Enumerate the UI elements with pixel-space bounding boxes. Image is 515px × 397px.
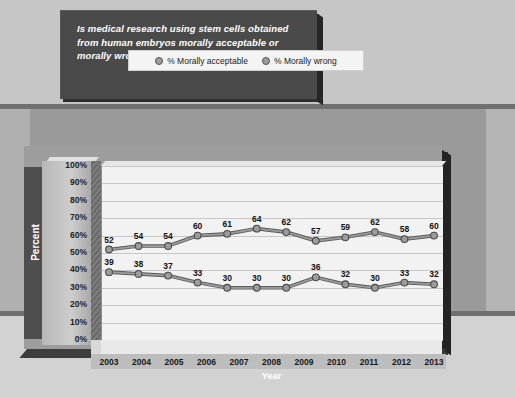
background-divider-top [0, 104, 515, 109]
y-axis-title: Percent [30, 168, 41, 318]
data-point-label: 36 [311, 262, 320, 272]
x-axis-tick-label: 2013 [425, 357, 444, 367]
legend-label-morally-wrong: % Morally wrong [274, 56, 337, 66]
data-point-label: 54 [134, 231, 143, 241]
data-point-label: 32 [429, 269, 438, 279]
data-point-label: 37 [163, 261, 172, 271]
y-axis-tick-label: 100% [65, 161, 87, 170]
y-axis-tick-label: 70% [70, 213, 87, 222]
data-point-marker[interactable] [283, 284, 290, 291]
data-point-label: 62 [370, 217, 379, 227]
data-point-label: 30 [252, 273, 261, 283]
x-axis-tick-label: 2010 [327, 357, 346, 367]
x-axis-tick-label: 2005 [165, 357, 184, 367]
data-point-marker[interactable] [312, 274, 319, 281]
data-point-label: 38 [134, 259, 143, 269]
data-point-marker[interactable] [224, 284, 231, 291]
y-axis-title-slab: Percent [24, 167, 42, 339]
data-point-label: 30 [282, 273, 291, 283]
data-point-marker[interactable] [312, 237, 319, 244]
x-axis-tick-label: 2006 [197, 357, 216, 367]
x-axis-tick-label: 2009 [295, 357, 314, 367]
data-point-marker[interactable] [283, 229, 290, 236]
data-point-marker[interactable] [224, 230, 231, 237]
data-point-label: 61 [222, 219, 231, 229]
data-point-label: 64 [252, 214, 261, 224]
data-point-label: 30 [370, 273, 379, 283]
chart-panel-side-face [442, 150, 451, 355]
data-point-marker[interactable] [401, 236, 408, 243]
data-point-marker[interactable] [135, 270, 142, 277]
data-point-marker[interactable] [253, 284, 260, 291]
y-axis-tick-label: 80% [70, 196, 87, 205]
data-point-label: 62 [282, 217, 291, 227]
data-point-marker[interactable] [431, 232, 438, 239]
data-point-label: 54 [163, 231, 172, 241]
data-point-marker[interactable] [106, 246, 113, 253]
chart-screenshot: Is medical research using stem cells obt… [0, 0, 515, 397]
data-point-marker[interactable] [135, 243, 142, 250]
y-axis-tick-label: 0% [75, 335, 87, 344]
background-right-column [486, 104, 515, 316]
y-axis-tick-label: 20% [70, 300, 87, 309]
data-point-marker[interactable] [165, 272, 172, 279]
legend-label-morally-acceptable: % Morally acceptable [167, 56, 248, 66]
chart-legend: % Morally acceptable % Morally wrong [128, 50, 364, 71]
data-point-marker[interactable] [342, 281, 349, 288]
data-point-label: 52 [104, 235, 113, 245]
y-axis-tick-label: 50% [70, 248, 87, 257]
plot-left-wall [91, 161, 101, 345]
data-point-label: 33 [400, 268, 409, 278]
data-point-label: 30 [222, 273, 231, 283]
data-point-label: 32 [341, 269, 350, 279]
y-axis-tick-label: 90% [70, 178, 87, 187]
data-point-label: 57 [311, 226, 320, 236]
plot-floor [101, 340, 442, 354]
y-axis-tick-label: 60% [70, 231, 87, 240]
data-point-marker[interactable] [194, 232, 201, 239]
data-point-label: 60 [429, 221, 438, 231]
data-point-label: 58 [400, 224, 409, 234]
data-point-marker[interactable] [372, 229, 379, 236]
data-point-label: 33 [193, 268, 202, 278]
series-line [109, 272, 434, 288]
legend-item-morally-acceptable[interactable]: % Morally acceptable [155, 56, 248, 66]
x-axis: 2003200420052006200720082009201020112012… [91, 354, 446, 369]
series-lines [101, 166, 442, 340]
data-point-marker[interactable] [342, 234, 349, 241]
data-point-marker[interactable] [431, 281, 438, 288]
x-axis-title: Year [101, 370, 442, 381]
y-axis-tick-label: 40% [70, 265, 87, 274]
y-axis-tick-label: 30% [70, 283, 87, 292]
data-point-marker[interactable] [194, 279, 201, 286]
data-point-label: 60 [193, 221, 202, 231]
data-point-label: 39 [104, 257, 113, 267]
x-axis-tick-label: 2004 [132, 357, 151, 367]
data-point-marker[interactable] [401, 279, 408, 286]
x-axis-tick-label: 2007 [230, 357, 249, 367]
x-axis-tick-label: 2012 [392, 357, 411, 367]
x-axis-tick-label: 2003 [100, 357, 119, 367]
y-axis-tick-label: 10% [70, 318, 87, 327]
data-point-marker[interactable] [165, 243, 172, 250]
data-point-marker[interactable] [253, 225, 260, 232]
legend-item-morally-wrong[interactable]: % Morally wrong [262, 56, 337, 66]
data-point-marker[interactable] [372, 284, 379, 291]
x-axis-tick-label: 2008 [262, 357, 281, 367]
data-point-label: 59 [341, 222, 350, 232]
plot-floor-side [91, 340, 101, 354]
y-axis-tick-column: 100%90%80%70%60%50%40%30%20%10%0% [42, 161, 91, 345]
data-point-marker[interactable] [106, 269, 113, 276]
x-axis-tick-label: 2011 [360, 357, 378, 367]
legend-marker-icon [155, 57, 163, 65]
legend-marker-icon [262, 57, 270, 65]
